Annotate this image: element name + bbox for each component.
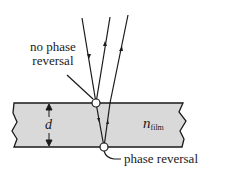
- label-line-1: no phase: [30, 40, 76, 54]
- thickness-label: d: [45, 118, 52, 132]
- reflected-ray-bottom: [110, 15, 128, 103]
- top-reflection-point: [92, 99, 100, 107]
- bottom-reflection-point: [100, 143, 108, 151]
- diagram-canvas: [0, 0, 225, 176]
- no-phase-reversal-label: no phase reversal: [30, 40, 76, 68]
- index-symbol: n: [143, 115, 151, 131]
- index-subscript: film: [151, 123, 164, 132]
- film-index-label: nfilm: [143, 116, 164, 135]
- leader-line-bottom: [104, 151, 121, 159]
- reflected-ray-top: [96, 17, 110, 103]
- phase-reversal-label: phase reversal: [124, 152, 198, 166]
- leader-line-top: [67, 75, 93, 99]
- label-line-2: reversal: [30, 54, 76, 68]
